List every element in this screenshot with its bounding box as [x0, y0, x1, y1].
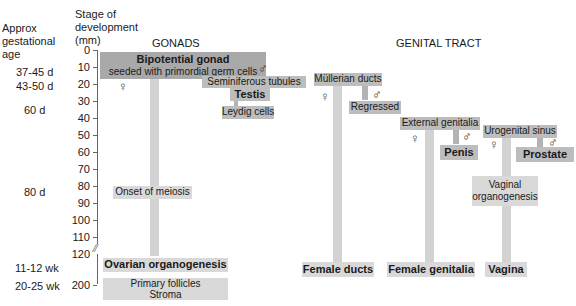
age-label: 60 d [24, 104, 45, 117]
tick-mark [93, 186, 97, 187]
age-label: 43-50 d [16, 80, 53, 93]
female-ducts-bar [333, 84, 342, 262]
tick-mark [93, 84, 97, 85]
axis-tick: 60 [62, 146, 90, 158]
age-label: 20-25 wk [15, 280, 60, 293]
mullerian-ducts-box: Müllerian ducts [314, 73, 382, 86]
tick-mark [93, 118, 97, 119]
tick-mark [93, 101, 97, 102]
primary-follicles-label: Primary follicles [103, 278, 228, 289]
axis-tick: 40 [62, 112, 90, 124]
penis-connector [453, 128, 459, 144]
y-axis-line-lower [97, 254, 98, 284]
axis-tick: 200 [62, 279, 90, 291]
female-genitalia-box: Female genitalia [387, 262, 475, 277]
age-header: Approx gestational age [2, 22, 55, 61]
female-gonad-bar [150, 78, 159, 256]
genital-tract-title: GENITAL TRACT [396, 37, 481, 50]
male-symbol-icon: ♂ [258, 62, 268, 75]
tick-mark [93, 135, 97, 136]
primary-follicles-box: Primary follicles Stroma [103, 278, 228, 300]
age-header-line: age [2, 48, 55, 61]
gonads-title: GONADS [152, 37, 200, 50]
bipotential-gonad-title: Bipotential gonad [100, 52, 266, 66]
onset-meiosis-box: Onset of meiosis [113, 186, 192, 199]
female-symbol-icon: ♀ [410, 132, 420, 145]
axis-tick: 70 [62, 163, 90, 175]
regressed-connector [362, 84, 368, 100]
axis-tick: 0 [62, 44, 90, 56]
female-symbol-icon: ♀ [489, 138, 499, 151]
age-header-line: Approx [2, 22, 55, 35]
axis-tick: 80 [62, 180, 90, 192]
axis-tick: 110 [62, 231, 90, 243]
age-header-line: gestational [2, 35, 55, 48]
axis-tick: 30 [62, 95, 90, 107]
axis-break-icon: ⁄⁄ [94, 244, 97, 254]
axis-tick: 50 [62, 129, 90, 141]
bipotential-gonad-box: Bipotential gonad seeded with primordial… [100, 52, 266, 79]
vaginal-organogenesis-box: Vaginal organogenesis [472, 176, 538, 206]
age-label: 37-45 d [16, 66, 53, 79]
testis-box: Testis [230, 88, 270, 101]
female-symbol-icon: ♀ [320, 90, 330, 103]
age-label: 80 d [24, 186, 45, 199]
female-symbol-icon: ♀ [118, 80, 128, 93]
stage-header-line: development [75, 21, 138, 34]
regressed-box: Regressed [349, 101, 401, 114]
stage-header-line: Stage of [75, 8, 138, 21]
organogenesis-label: organogenesis [472, 191, 538, 203]
axis-tick: 100 [62, 214, 90, 226]
leydig-cells-box: Leydig cells [222, 106, 274, 119]
ovarian-organogenesis-box: Ovarian organogenesis [103, 258, 228, 272]
prostate-box: Prostate [516, 147, 574, 162]
male-symbol-icon: ♂ [372, 88, 382, 101]
tick-mark [93, 203, 97, 204]
vaginal-label: Vaginal [472, 179, 538, 191]
y-axis-line [97, 50, 98, 244]
tick-mark [93, 67, 97, 68]
vagina-box: Vagina [485, 262, 527, 277]
tick-mark [93, 169, 97, 170]
penis-box: Penis [440, 145, 478, 160]
axis-tick: 120 [62, 248, 90, 260]
stage-header: Stage of development (mm) [75, 8, 138, 47]
age-label: 11-12 wk [15, 262, 59, 275]
female-ducts-box: Female ducts [302, 262, 374, 277]
tick-mark [93, 220, 97, 221]
axis-tick: 10 [62, 61, 90, 73]
male-symbol-icon: ♂ [462, 130, 472, 143]
tick-mark [93, 285, 97, 286]
axis-tick: 20 [62, 78, 90, 90]
axis-tick: 90 [62, 197, 90, 209]
tick-mark [93, 50, 97, 51]
female-genitalia-bar [425, 128, 434, 262]
tick-mark [93, 152, 97, 153]
tick-mark [93, 237, 97, 238]
stroma-label: Stroma [103, 289, 228, 300]
seminiferous-tubules-box: Seminiferous tubules [202, 76, 306, 88]
